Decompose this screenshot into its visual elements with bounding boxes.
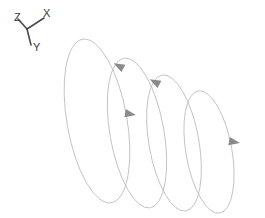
axis-label-layer: Z X Y bbox=[0, 0, 265, 218]
axis-label-y: Y bbox=[33, 41, 41, 53]
axis-label-z: Z bbox=[14, 11, 21, 23]
axis-label-x: X bbox=[43, 7, 51, 19]
helix-diagram-canvas: Z X Y bbox=[0, 0, 265, 218]
